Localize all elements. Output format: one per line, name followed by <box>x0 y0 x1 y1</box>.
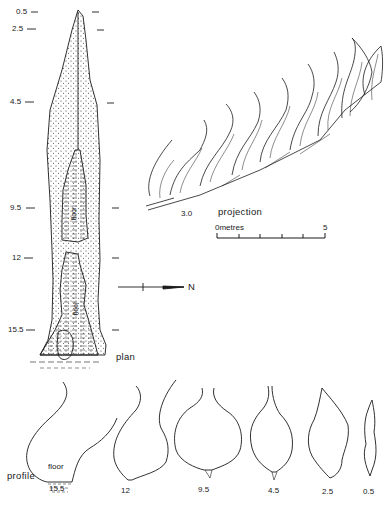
scale-start-label: 0metres <box>215 224 244 232</box>
plan-depth-label: 0.5 <box>16 8 27 16</box>
projection-view <box>146 38 383 210</box>
scale-bar <box>217 233 325 238</box>
profile-9-5 <box>175 388 242 470</box>
plan-depth-label: 2.5 <box>12 25 23 33</box>
profile-section-label: 0.5 <box>363 488 374 496</box>
profile-sections <box>27 380 376 492</box>
plan-depth-label: 12 <box>12 254 21 262</box>
plan-depth-label: 15.5 <box>8 326 24 334</box>
floor-label-lower: floor <box>72 302 79 316</box>
profile-12 <box>114 380 176 480</box>
profile-2-5 <box>308 388 348 478</box>
profile-section-label: 12 <box>121 487 130 495</box>
plan-depth-label: 4.5 <box>10 98 21 106</box>
plan-depth-label: 9.5 <box>10 204 21 212</box>
profile-15-5 <box>27 382 117 482</box>
north-arrow <box>118 283 184 291</box>
projection-title: projection <box>218 208 262 216</box>
floor-label-upper: floor <box>70 207 77 221</box>
profile-section-label: 4.5 <box>268 487 279 495</box>
profile-section-label: 2.5 <box>322 488 333 496</box>
plan-title: plan <box>116 353 135 361</box>
scale-end-label: 5 <box>323 224 327 232</box>
profile-0-5 <box>364 400 376 476</box>
cave-diagram <box>0 0 391 509</box>
profile-4-5 <box>250 386 292 472</box>
north-label: N <box>188 283 195 291</box>
profile-section-label: 15.5 <box>49 485 65 493</box>
profile-section-label: 9.5 <box>198 486 209 494</box>
profile-floor-label: floor <box>48 463 64 471</box>
projection-start-label: 3.0 <box>181 210 192 218</box>
profile-title: profile <box>7 472 35 480</box>
